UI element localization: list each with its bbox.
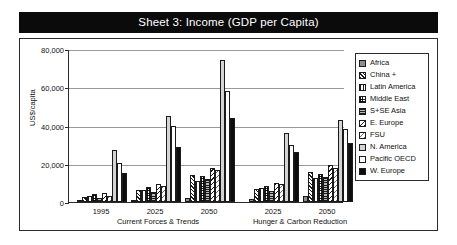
legend-item-label: Pacific OECD bbox=[370, 153, 416, 165]
y-axis-tick bbox=[65, 203, 69, 204]
legend-item-label: Middle East bbox=[370, 93, 409, 105]
bar bbox=[176, 147, 181, 202]
legend-swatch-icon bbox=[359, 120, 366, 127]
legend-item-label: E. Europe bbox=[370, 117, 403, 129]
legend-item-label: FSU bbox=[370, 129, 385, 141]
legend-swatch-icon bbox=[359, 96, 366, 103]
legend-item-label: China + bbox=[370, 69, 396, 81]
x-axis-tick-label: 1995 bbox=[93, 207, 110, 216]
scenario-label: Hunger & Carbon Reduction bbox=[253, 217, 347, 226]
chart-legend: AfricaChina +Latin AmericaMiddle EastS+S… bbox=[355, 53, 429, 181]
legend-swatch-icon bbox=[359, 144, 366, 151]
y-axis-tick-label: 40,000 bbox=[41, 122, 64, 131]
chart-screenshot: Sheet 3: Income (GDP per Capita) US$/cap… bbox=[0, 0, 457, 245]
legend-item-label: Africa bbox=[370, 57, 389, 69]
page-title: Sheet 3: Income (GDP per Capita) bbox=[19, 12, 438, 33]
legend-swatch-icon bbox=[359, 72, 366, 79]
legend-swatch-icon bbox=[359, 84, 366, 91]
legend-item-label: S+SE Asia bbox=[370, 105, 406, 117]
y-axis-tick bbox=[65, 165, 69, 166]
y-axis-title: US$/capita bbox=[28, 89, 37, 126]
legend-item[interactable]: Latin America bbox=[359, 81, 425, 93]
legend-item-label: Latin America bbox=[370, 81, 415, 93]
y-axis-tick-label: 20,000 bbox=[41, 160, 64, 169]
legend-item-label: W. Europe bbox=[370, 165, 405, 177]
legend-item[interactable]: Middle East bbox=[359, 93, 425, 105]
x-axis-tick-label: 2025 bbox=[147, 207, 164, 216]
y-axis-tick bbox=[65, 88, 69, 89]
legend-item[interactable]: Africa bbox=[359, 57, 425, 69]
plot-area: 020,00040,00060,00080,000 bbox=[68, 50, 343, 203]
title-banner: Sheet 3: Income (GDP per Capita) bbox=[19, 12, 438, 33]
bar-group bbox=[249, 49, 299, 202]
legend-swatch-icon bbox=[359, 60, 366, 67]
bar-group bbox=[303, 49, 353, 202]
legend-swatch-icon bbox=[359, 108, 366, 115]
chart-frame: US$/capita 020,00040,00060,00080,000 199… bbox=[19, 38, 438, 231]
legend-item-label: N. America bbox=[370, 141, 407, 153]
legend-item[interactable]: Pacific OECD bbox=[359, 153, 425, 165]
x-axis-tick-label: 2025 bbox=[265, 207, 282, 216]
bar-group bbox=[131, 49, 181, 202]
y-axis-tick-label: 80,000 bbox=[41, 46, 64, 55]
bar bbox=[230, 118, 235, 202]
x-axis-tick-label: 2050 bbox=[201, 207, 218, 216]
legend-item[interactable]: W. Europe bbox=[359, 165, 425, 177]
legend-item[interactable]: China + bbox=[359, 69, 425, 81]
bar bbox=[294, 152, 299, 202]
scenario-label: Current Forces & Trends bbox=[117, 217, 199, 226]
legend-item[interactable]: S+SE Asia bbox=[359, 105, 425, 117]
y-axis-tick-label: 0 bbox=[60, 199, 64, 208]
legend-swatch-icon bbox=[359, 132, 366, 139]
y-axis-tick bbox=[65, 127, 69, 128]
legend-swatch-icon bbox=[359, 168, 366, 175]
bar-group bbox=[185, 49, 235, 202]
bar-group bbox=[77, 49, 127, 202]
legend-item[interactable]: N. America bbox=[359, 141, 425, 153]
bar bbox=[122, 173, 127, 202]
legend-item[interactable]: E. Europe bbox=[359, 117, 425, 129]
legend-item[interactable]: FSU bbox=[359, 129, 425, 141]
x-axis-tick-label: 2050 bbox=[319, 207, 336, 216]
bar bbox=[348, 143, 353, 202]
y-axis-tick bbox=[65, 50, 69, 51]
y-axis-tick-label: 60,000 bbox=[41, 84, 64, 93]
legend-swatch-icon bbox=[359, 156, 366, 163]
